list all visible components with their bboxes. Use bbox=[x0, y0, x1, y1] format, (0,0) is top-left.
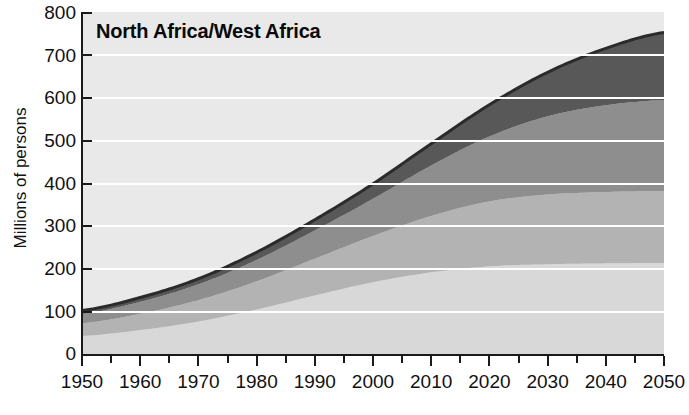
x-tickmark-minor-1985 bbox=[285, 356, 287, 363]
y-tick-700: 700 bbox=[22, 46, 76, 65]
gridline-500 bbox=[82, 140, 664, 142]
y-tickmark-400 bbox=[83, 183, 92, 185]
x-tickmark-minor-2025 bbox=[518, 356, 520, 363]
x-tickmark-2020 bbox=[488, 356, 490, 366]
gridline-600 bbox=[82, 97, 664, 99]
x-tickmark-1990 bbox=[314, 356, 316, 366]
x-tickmark-2010 bbox=[430, 356, 432, 366]
x-tickmark-minor-2015 bbox=[459, 356, 461, 363]
x-tickmark-minor-2005 bbox=[401, 356, 403, 363]
x-tick-1990: 1990 bbox=[285, 372, 345, 391]
x-tick-1950: 1950 bbox=[52, 372, 112, 391]
x-tickmark-2050 bbox=[663, 356, 665, 366]
x-tick-2020: 2020 bbox=[459, 372, 519, 391]
x-tick-1960: 1960 bbox=[110, 372, 170, 391]
x-tickmark-minor-1995 bbox=[343, 356, 345, 363]
y-tickmark-600 bbox=[83, 97, 92, 99]
chart-title: North Africa/West Africa bbox=[96, 20, 321, 43]
y-tickmark-800 bbox=[83, 12, 92, 14]
x-tickmark-minor-1975 bbox=[227, 356, 229, 363]
gridline-200 bbox=[82, 268, 664, 270]
plot-area bbox=[82, 12, 664, 354]
y-tick-400: 400 bbox=[22, 174, 76, 193]
x-tickmark-minor-1955 bbox=[110, 356, 112, 363]
y-axis-tick-labels: 800 700 600 500 400 300 200 100 0 bbox=[0, 0, 76, 415]
y-tick-500: 500 bbox=[22, 131, 76, 150]
x-tick-2030: 2030 bbox=[518, 372, 578, 391]
y-tick-300: 300 bbox=[22, 216, 76, 235]
x-tickmark-1960 bbox=[139, 356, 141, 366]
x-tickmark-minor-2035 bbox=[576, 356, 578, 363]
x-tickmark-minor-2045 bbox=[634, 356, 636, 363]
x-tick-2050: 2050 bbox=[634, 372, 689, 391]
gridline-100 bbox=[82, 311, 664, 313]
y-tick-600: 600 bbox=[22, 88, 76, 107]
x-tick-2040: 2040 bbox=[576, 372, 636, 391]
gridline-400 bbox=[82, 183, 664, 185]
x-tick-1980: 1980 bbox=[227, 372, 287, 391]
gridline-300 bbox=[82, 225, 664, 227]
y-tick-0: 0 bbox=[22, 344, 76, 363]
x-tickmark-2040 bbox=[605, 356, 607, 366]
x-tickmark-2000 bbox=[372, 356, 374, 366]
y-tickmark-100 bbox=[83, 311, 92, 313]
x-tickmark-1950 bbox=[81, 356, 83, 366]
y-tickmark-300 bbox=[83, 225, 92, 227]
x-tickmark-minor-1965 bbox=[168, 356, 170, 363]
y-tick-200: 200 bbox=[22, 259, 76, 278]
x-tickmark-1980 bbox=[256, 356, 258, 366]
y-tickmark-500 bbox=[83, 140, 92, 142]
y-tick-800: 800 bbox=[22, 3, 76, 22]
y-tick-100: 100 bbox=[22, 302, 76, 321]
y-tickmark-200 bbox=[83, 268, 92, 270]
y-tickmark-700 bbox=[83, 54, 92, 56]
x-tick-2010: 2010 bbox=[401, 372, 461, 391]
x-tickmark-2030 bbox=[547, 356, 549, 366]
gridline-700 bbox=[82, 54, 664, 56]
x-tick-1970: 1970 bbox=[168, 372, 228, 391]
x-tick-2000: 2000 bbox=[343, 372, 403, 391]
x-tickmark-1970 bbox=[197, 356, 199, 366]
